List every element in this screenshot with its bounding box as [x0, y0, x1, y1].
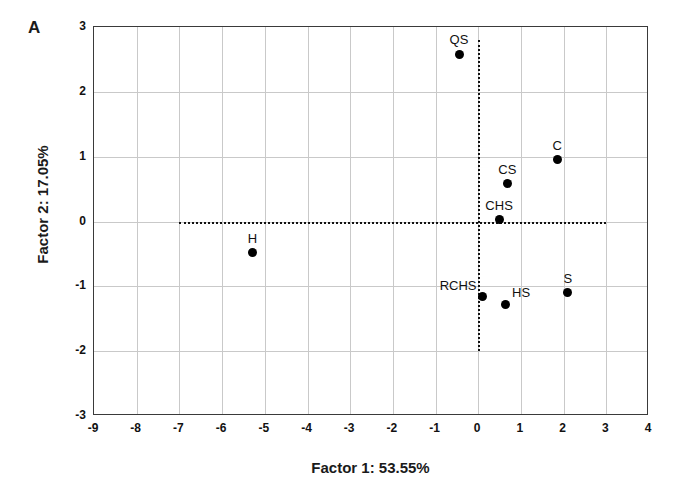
data-point-label-chs: CHS [485, 198, 512, 213]
x-tick-label: -5 [258, 421, 269, 435]
x-tick-label: -6 [216, 421, 227, 435]
x-axis-title: Factor 1: 53.55% [93, 459, 648, 476]
x-tick-label: 3 [602, 421, 609, 435]
gridline-vertical [436, 27, 437, 414]
y-tick-label: 0 [62, 214, 86, 228]
y-axis-title: Factor 2: 17.05% [34, 75, 51, 335]
data-point-label-c: C [552, 138, 561, 153]
y-tick-label: 2 [62, 84, 86, 98]
x-tick-label: -8 [130, 421, 141, 435]
data-point-h [248, 248, 257, 257]
data-point-s [563, 288, 572, 297]
reference-lines [94, 27, 647, 414]
data-point-hs [501, 300, 510, 309]
gridline-vertical [222, 27, 223, 414]
x-tick-label: -4 [301, 421, 312, 435]
gridline-vertical [564, 27, 565, 414]
gridline-vertical [179, 27, 180, 414]
gridline-horizontal [94, 92, 647, 93]
gridline-vertical [308, 27, 309, 414]
gridline-vertical [606, 27, 607, 414]
gridline-horizontal [94, 222, 647, 223]
gridline-horizontal [94, 286, 647, 287]
data-point-label-rchs: RCHS [440, 278, 477, 293]
data-points-layer: QSCCSCHSHRCHSHSS [94, 27, 647, 414]
figure-panel-a: A Factor 2: 17.05% QSCCSCHSHRCHSHSS -9-8… [0, 0, 690, 491]
x-tick-label: -2 [386, 421, 397, 435]
x-tick-label: -1 [429, 421, 440, 435]
gridline-vertical [393, 27, 394, 414]
x-tick-label: -7 [173, 421, 184, 435]
x-tick-label: -9 [88, 421, 99, 435]
data-point-label-s: S [564, 271, 573, 286]
y-tick-label: -1 [62, 278, 86, 292]
y-tick-label: -2 [62, 343, 86, 357]
x-tick-label: 0 [474, 421, 481, 435]
data-point-rchs [478, 292, 487, 301]
gridlines [94, 27, 647, 414]
gridline-vertical [350, 27, 351, 414]
data-point-cs [503, 179, 512, 188]
x-tick-label: 2 [559, 421, 566, 435]
y-tick-label: 1 [62, 149, 86, 163]
reference-line-vertical [478, 40, 480, 351]
gridline-vertical [478, 27, 479, 414]
data-point-c [553, 155, 562, 164]
panel-label: A [28, 18, 40, 38]
y-tick-label: 3 [62, 19, 86, 33]
x-tick-label: 4 [645, 421, 652, 435]
gridline-vertical [521, 27, 522, 414]
data-point-chs [495, 215, 504, 224]
data-point-label-h: H [248, 231, 257, 246]
data-point-qs [455, 50, 464, 59]
gridline-horizontal [94, 157, 647, 158]
data-point-label-hs: HS [512, 285, 530, 300]
y-tick-label: -3 [62, 408, 86, 422]
data-point-label-cs: CS [498, 162, 516, 177]
plot-area: QSCCSCHSHRCHSHSS [93, 26, 648, 415]
gridline-vertical [265, 27, 266, 414]
x-tick-label: -3 [344, 421, 355, 435]
data-point-label-qs: QS [450, 32, 469, 47]
reference-line-horizontal [179, 222, 606, 224]
x-tick-label: 1 [517, 421, 524, 435]
gridline-horizontal [94, 351, 647, 352]
gridline-vertical [137, 27, 138, 414]
